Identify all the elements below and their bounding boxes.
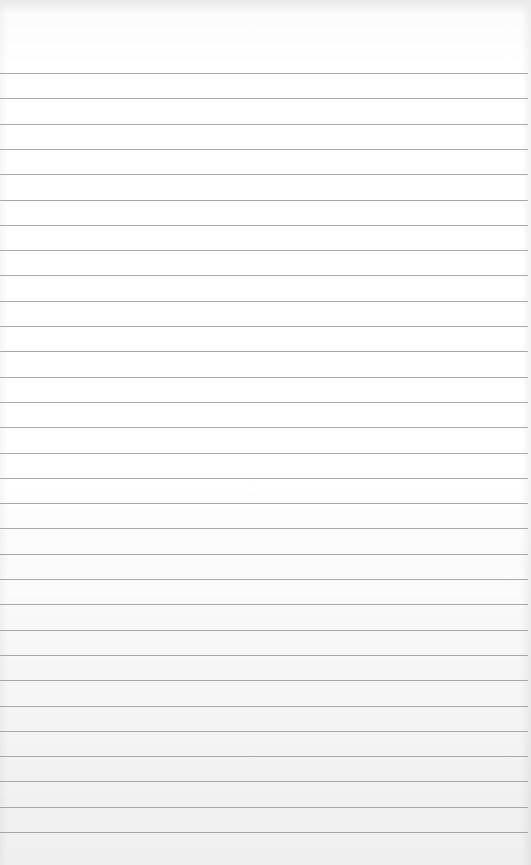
ruled-line [0, 453, 528, 454]
ruled-line [0, 275, 528, 276]
ruled-paper [0, 0, 531, 865]
ruled-line [0, 503, 528, 504]
ruled-line [0, 680, 528, 681]
ruled-line [0, 832, 528, 833]
ruled-line [0, 250, 528, 251]
ruled-line [0, 630, 528, 631]
ruled-line [0, 73, 528, 74]
ruled-line [0, 655, 528, 656]
ruled-line [0, 706, 528, 707]
ruled-line [0, 149, 528, 150]
ruled-line [0, 478, 528, 479]
ruled-line [0, 124, 528, 125]
ruled-line [0, 402, 528, 403]
paper-top-edge [0, 0, 531, 14]
ruled-line [0, 427, 528, 428]
ruled-line [0, 200, 528, 201]
ruled-line [0, 756, 528, 757]
ruled-line [0, 225, 528, 226]
ruled-line [0, 579, 528, 580]
ruled-line [0, 554, 528, 555]
ruled-line [0, 781, 528, 782]
ruled-line [0, 731, 528, 732]
ruled-line [0, 807, 528, 808]
ruled-line [0, 377, 528, 378]
ruled-line [0, 351, 528, 352]
ruled-line [0, 604, 528, 605]
ruled-line [0, 98, 528, 99]
ruled-line [0, 301, 528, 302]
ruled-line [0, 174, 528, 175]
ruled-line [0, 326, 528, 327]
ruled-line [0, 528, 528, 529]
